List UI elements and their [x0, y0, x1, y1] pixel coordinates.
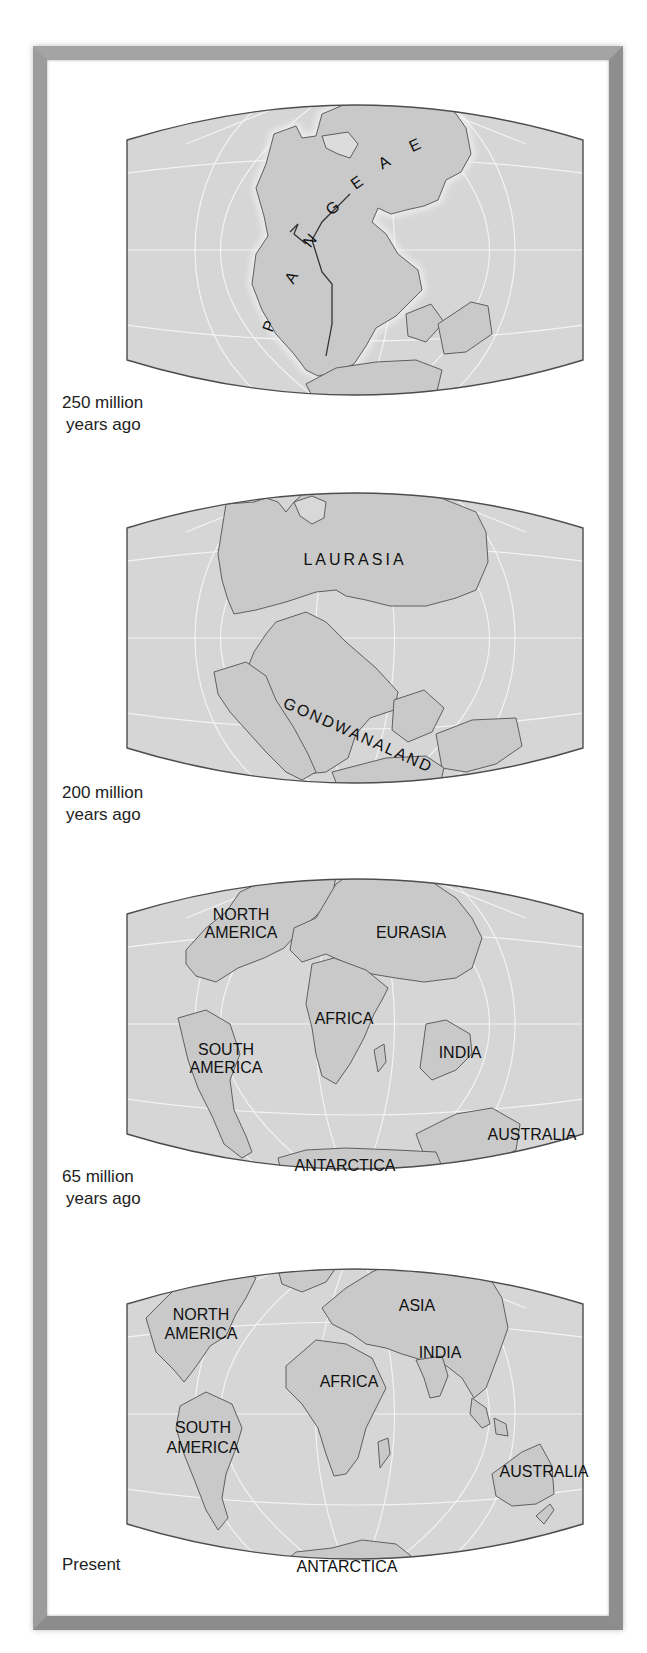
era-label-65: 65 million years ago: [62, 1166, 182, 1210]
continent-label: AMERICA: [190, 1059, 263, 1076]
era-label-line1: 65 million: [62, 1166, 182, 1188]
continent-label: NORTH: [213, 906, 270, 923]
laurasia-landmass: [218, 476, 488, 614]
map-200-million-years-ago: LAURASIAGONDWANALAND: [124, 472, 586, 808]
continent-label: ASIA: [399, 1297, 436, 1314]
continent-label: AUSTRALIA: [500, 1463, 589, 1480]
continent-label: SOUTH: [198, 1041, 254, 1058]
continent-label: ANTARCTICA: [296, 1558, 397, 1575]
era-label-250: 250 million years ago: [62, 392, 182, 436]
continent-label: AMERICA: [167, 1439, 240, 1456]
era-label-line1: Present: [62, 1554, 182, 1576]
era-label-line2: years ago: [62, 804, 182, 826]
era-label-line1: 200 million: [62, 782, 182, 804]
era-label-line2: years ago: [62, 414, 182, 436]
continent-label: AUSTRALIA: [488, 1126, 577, 1143]
continent-label: LAURASIA: [303, 551, 406, 568]
continent-label: INDIA: [439, 1044, 482, 1061]
continent-label: SOUTH: [175, 1419, 231, 1436]
era-label-line2: years ago: [62, 1188, 182, 1210]
era-label-line1: 250 million: [62, 392, 182, 414]
continent-label: AFRICA: [320, 1373, 379, 1390]
continent-label: EURASIA: [376, 924, 447, 941]
map-present: NORTHAMERICAASIAINDIAAFRICASOUTHAMERICAA…: [124, 1248, 586, 1584]
map-250-million-years-ago: PANGEAE: [124, 84, 586, 420]
continent-label: AMERICA: [205, 924, 278, 941]
era-label-present: Present: [62, 1554, 182, 1576]
continent-label: INDIA: [419, 1344, 462, 1361]
continent-label: AMERICA: [165, 1325, 238, 1342]
continent-label: NORTH: [173, 1306, 230, 1323]
continent-label: ANTARCTICA: [294, 1157, 395, 1174]
era-label-200: 200 million years ago: [62, 782, 182, 826]
continent-label: AFRICA: [315, 1010, 374, 1027]
map-65-million-years-ago: NORTHAMERICAEURASIAAFRICASOUTHAMERICAIND…: [124, 858, 586, 1194]
